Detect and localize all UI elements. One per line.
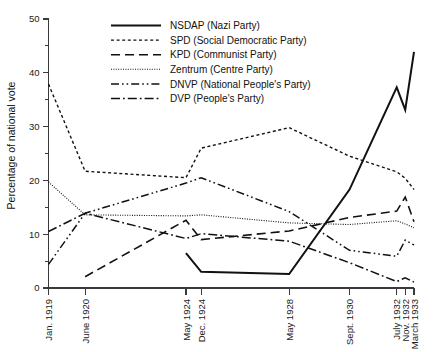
y-tick-label: 30 xyxy=(29,121,40,132)
x-tick-label: March 1933 xyxy=(409,299,420,349)
x-tick-label: May 1924 xyxy=(181,299,192,341)
legend-label: DNVP (National People's Party) xyxy=(170,79,311,90)
y-axis-title-text: Percentage of national vote xyxy=(5,81,17,209)
y-tick-label: 40 xyxy=(29,67,40,78)
legend-label: KPD (Communist Party) xyxy=(170,49,277,60)
x-tick-label: Sept. 1930 xyxy=(344,299,355,345)
x-tick-label: Dec. 1924 xyxy=(196,299,207,342)
y-tick-label: 20 xyxy=(29,175,40,186)
legend-label: NSDAP (Nazi Party) xyxy=(170,20,260,31)
y-axis-title: Percentage of national vote xyxy=(5,81,17,209)
y-tick-label: 0 xyxy=(34,282,39,293)
x-tick-label: May 1928 xyxy=(284,299,295,341)
line-chart-canvas: 01020304050 Jan. 1919June 1920May 1924De… xyxy=(0,0,434,352)
chart-figure: 01020304050 Jan. 1919June 1920May 1924De… xyxy=(0,0,434,352)
y-axis: 01020304050 xyxy=(29,13,49,293)
legend-label: Zentrum (Centre Party) xyxy=(170,64,273,75)
y-tick-label: 50 xyxy=(29,13,40,24)
y-tick-label: 10 xyxy=(29,229,40,240)
chart-legend: NSDAP (Nazi Party)SPD (Social Democratic… xyxy=(111,20,311,104)
x-tick-label: June 1920 xyxy=(80,299,91,343)
x-tick-label: Jan. 1919 xyxy=(43,299,54,341)
legend-label: SPD (Social Democratic Party) xyxy=(170,35,307,46)
x-axis: Jan. 1919June 1920May 1924Dec. 1924May 1… xyxy=(43,288,420,349)
series-line-kpd xyxy=(85,197,414,277)
series-line-dnvp xyxy=(49,178,415,265)
series-line-zentrum xyxy=(49,182,415,228)
legend-label: DVP (People's Party) xyxy=(170,93,264,104)
